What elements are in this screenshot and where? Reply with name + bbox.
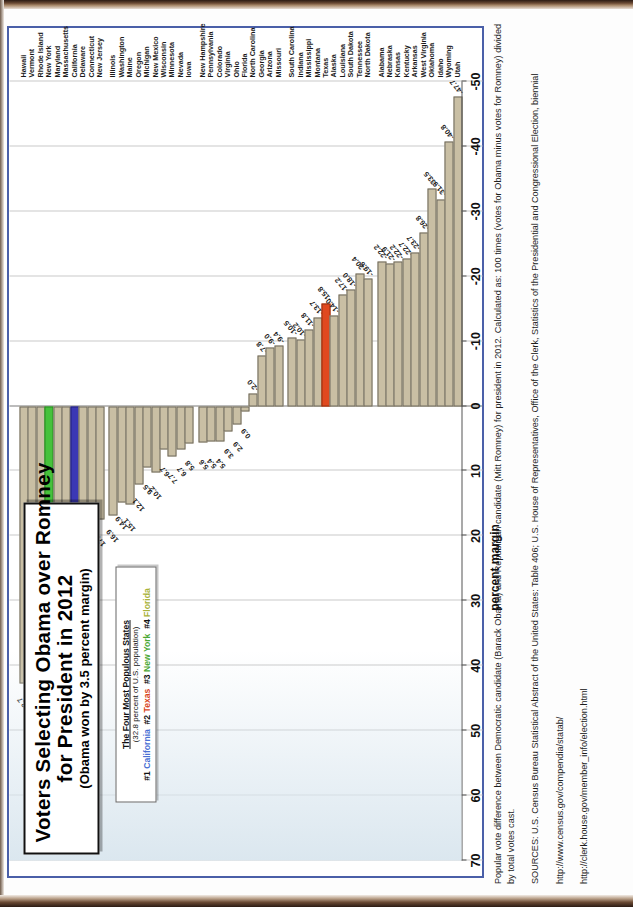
data-label: 5.4 (213, 456, 227, 470)
bar-michigan (142, 406, 151, 468)
category-label: New Jersey (94, 37, 103, 77)
legend-rank-4: #4 Florida (141, 588, 151, 629)
category-label: New York (43, 45, 52, 77)
category-label: Illinois (107, 54, 116, 77)
bar-georgia (257, 355, 266, 406)
legend-rank-3: #3 New York (141, 633, 151, 683)
axis-tick-label: 20 (468, 523, 482, 547)
notes-column: Popular vote difference between Democrat… (492, 24, 628, 884)
category-label: West Virginia (418, 32, 427, 77)
note-link-census[interactable]: http://www.census.gov/compendia/statab/ (554, 24, 567, 884)
bar-ohio (232, 406, 241, 425)
chart-plot-area: 42.7Hawaii35.6Vermont27.5Rhode Island26.… (9, 28, 482, 876)
scanned-page: 42.7Hawaii35.6Vermont27.5Rhode Island26.… (0, 0, 633, 907)
category-label: Connecticut (86, 35, 95, 77)
chart-title-line1: Voters Selecting Obama over Romney (31, 514, 53, 842)
category-label: Iowa (183, 61, 192, 77)
category-label: South Carolina (286, 26, 295, 77)
category-label: Georgia (256, 50, 265, 77)
category-label: Maine (124, 57, 133, 77)
value-axis-baseline (461, 81, 462, 860)
note-link-clerk[interactable]: http://clerk.house.gov/member_info/elect… (578, 24, 591, 884)
bar-louisiana (338, 294, 347, 406)
bar-kentucky (402, 258, 411, 405)
bar-arkansas (410, 252, 419, 406)
axis-tick-label: 50 (468, 718, 482, 742)
legend-card: The Four Most Populous States(32.8 perce… (115, 566, 156, 802)
category-label: Rhode Island (35, 32, 44, 77)
gridline (9, 210, 482, 211)
axis-tick-label: 60 (468, 783, 482, 807)
legend-subheading: (32.8 percent of U.S. population) (130, 574, 139, 794)
category-label: Alaska (328, 54, 337, 77)
chart-frame: 42.7Hawaii35.6Vermont27.5Rhode Island26.… (7, 26, 484, 878)
axis-tick-label: 40 (468, 653, 482, 677)
bar-iowa (184, 406, 193, 444)
bar-maine (125, 406, 134, 504)
category-label: Nebraska (384, 45, 393, 77)
axis-tick-label: -10 (468, 329, 482, 353)
bar-new-mexico (151, 406, 160, 472)
bar-oklahoma (427, 188, 436, 405)
bar-alabama (377, 261, 386, 405)
bar-south-carolina (287, 337, 296, 405)
bar-west-virginia (419, 232, 428, 406)
scan-edge-top (0, 0, 633, 9)
category-label: Wyoming (443, 45, 452, 77)
bar-wisconsin (159, 406, 168, 449)
category-label: Mississippi (303, 38, 312, 77)
legend-state-2: Texas (141, 688, 151, 712)
category-label: Missouri (273, 47, 282, 77)
category-label: Wisconsin (158, 41, 167, 77)
legend-heading: The Four Most Populous States (120, 574, 130, 794)
category-label: Tennessee (354, 40, 363, 77)
bar-kansas (393, 261, 402, 405)
category-label: Hawaii (18, 54, 27, 77)
category-label: Arkansas (409, 45, 418, 77)
category-label: Washington (116, 36, 125, 77)
bar-texas (321, 303, 330, 406)
category-label: Virginia (222, 51, 231, 77)
category-label: Oklahoma (426, 42, 435, 77)
axis-tick-label: -30 (468, 199, 482, 223)
axis-tick-label: -40 (468, 134, 482, 158)
bar-wyoming (444, 141, 453, 406)
legend-entries: #1 California #2 Texas #3 New York #4 Fl… (141, 574, 151, 794)
category-label: Minnesota (166, 41, 175, 77)
bar-north-carolina (248, 393, 257, 406)
axis-tick-label: 10 (468, 459, 482, 483)
note-definition: Popular vote difference between Democrat… (492, 24, 518, 884)
bar-colorado (215, 406, 224, 441)
gridline (9, 80, 482, 81)
bar-oregon (134, 406, 143, 485)
bar-illinois (108, 406, 117, 516)
category-label: Florida (239, 53, 248, 77)
category-label: Delaware (77, 45, 86, 77)
category-label: South Dakota (345, 31, 354, 77)
bar-missouri (274, 345, 283, 406)
category-label: Idaho (435, 58, 444, 77)
bar-south-dakota (346, 289, 355, 406)
bar-virginia (223, 406, 232, 431)
category-label: North Dakota (362, 32, 371, 77)
category-label: Montana (312, 47, 321, 77)
bar-florida (240, 406, 249, 412)
legend-rank-2: #2 Texas (141, 688, 151, 724)
category-label: Maryland (52, 45, 61, 77)
category-label: Massachusetts (60, 25, 69, 77)
chart-canvas: 42.7Hawaii35.6Vermont27.5Rhode Island26.… (9, 28, 482, 876)
category-label: Indiana (295, 52, 304, 77)
category-label: Kentucky (401, 45, 410, 77)
category-label: Pennsylvania (205, 31, 214, 77)
axis-tick-label: 30 (468, 588, 482, 612)
bar-arizona (265, 347, 274, 405)
bar-montana (313, 317, 322, 406)
bar-idaho (436, 199, 445, 406)
data-label: 0.9 (238, 427, 252, 441)
bar-minnesota (167, 406, 176, 456)
gridline (9, 145, 482, 146)
note-sources: SOURCES: U.S. Census Bureau Statistical … (529, 24, 542, 884)
bar-mississippi (304, 329, 313, 406)
bar-tennessee (355, 273, 364, 405)
scan-edge-bottom (0, 895, 633, 907)
